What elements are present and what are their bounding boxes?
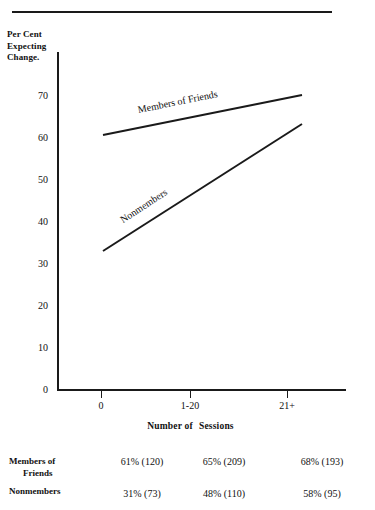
table-cell: 65% (209): [203, 456, 246, 468]
table-row-label-line-2: Friends: [9, 467, 55, 479]
table-cell: 68% (193): [301, 456, 344, 468]
table-row-label-line-1: Nonmembers: [9, 486, 61, 496]
table-row-label-line-1: Members of: [9, 456, 55, 466]
table-cell: 58% (95): [303, 488, 341, 500]
table-row: Members of Friends 61% (120) 65% (209) 6…: [0, 455, 375, 485]
series-line-nonmembers: [103, 124, 302, 251]
table-cell: 31% (73): [123, 488, 161, 500]
plot-lines: [0, 0, 375, 510]
table-row-label: Members of Friends: [9, 455, 55, 479]
figure-page: Per Cent Expecting Change. 70 60 50 40 3…: [0, 0, 375, 510]
table-cell: 61% (120): [121, 456, 164, 468]
table-cell: 48% (110): [203, 488, 245, 500]
table-row: Nonmembers 31% (73) 48% (110) 58% (95): [0, 485, 375, 510]
table-row-label: Nonmembers: [9, 485, 61, 497]
